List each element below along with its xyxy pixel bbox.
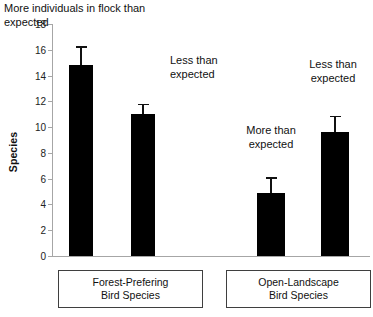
- annotation-more-than-expected-open: More than expected: [230, 124, 312, 151]
- annotation-more-individuals-in-flock: More individuals in flock than expected: [4, 2, 219, 29]
- bar-forest-less: [131, 114, 155, 256]
- y-tick-label-0: 0: [40, 251, 46, 262]
- y-tick-label-2: 2: [40, 225, 46, 236]
- y-axis-title: Species: [7, 117, 19, 187]
- x-axis-line: [52, 256, 370, 257]
- annotation-less-than-expected-open: Less than expected: [292, 58, 373, 85]
- y-tick-label-4: 4: [40, 199, 46, 210]
- y-tick-label-8: 8: [40, 147, 46, 158]
- annotation-less-than-expected-forest: Less than expected: [170, 54, 250, 81]
- bar-open-less: [321, 132, 349, 256]
- plot-area: 18 16 14 12 10 8 6 4: [52, 24, 370, 257]
- y-tick-label-12: 12: [35, 96, 46, 107]
- error-bar-forest-less: [131, 104, 155, 114]
- category-box-open-landscape: Open-Landscape Bird Species: [226, 270, 371, 308]
- error-bar-open-more: [257, 177, 285, 193]
- y-tick-label-14: 14: [35, 70, 46, 81]
- y-tick-label-6: 6: [40, 173, 46, 184]
- category-label-row: Forest-Prefering Bird Species Open-Lands…: [52, 270, 370, 310]
- y-axis-line: [52, 24, 53, 257]
- error-bar-open-less: [321, 116, 349, 133]
- bar-chart: Species 18 16 14 12 10 8: [0, 0, 373, 317]
- bar-open-more: [257, 193, 285, 256]
- category-box-forest-prefering: Forest-Prefering Bird Species: [58, 270, 203, 308]
- error-bar-forest-more: [69, 46, 93, 65]
- bar-forest-more: [69, 65, 93, 256]
- y-tick-label-10: 10: [35, 122, 46, 133]
- y-tick-label-16: 16: [35, 44, 46, 55]
